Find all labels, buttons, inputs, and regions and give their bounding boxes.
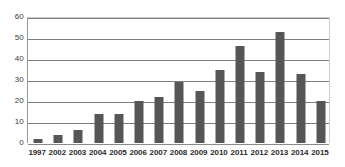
bar-2005[interactable]	[114, 114, 123, 143]
bar-2011[interactable]	[236, 46, 245, 143]
bar-2010[interactable]	[215, 70, 224, 144]
bar-slot	[28, 18, 48, 143]
x-tick-label: 2003	[69, 148, 86, 158]
x-tick-label: 2013	[271, 148, 288, 158]
bar-2013[interactable]	[276, 32, 285, 143]
gridline-0	[28, 144, 329, 145]
bar-2009[interactable]	[195, 91, 204, 144]
bar-2004[interactable]	[94, 114, 103, 143]
y-tick-label: 30	[0, 76, 24, 84]
x-tick-label: 2011	[231, 148, 248, 158]
bar-slot	[129, 18, 149, 143]
bar-slot	[250, 18, 270, 143]
y-tick-label: 50	[0, 34, 24, 42]
bar-2015[interactable]	[316, 101, 325, 143]
bar-slot	[68, 18, 88, 143]
bar-slot	[270, 18, 290, 143]
bar-slot	[190, 18, 210, 143]
y-tick-label: 20	[0, 97, 24, 105]
bar-2003[interactable]	[74, 130, 83, 143]
x-tick-label: 2009	[190, 148, 207, 158]
bar-2002[interactable]	[54, 135, 63, 143]
bar-1997[interactable]	[34, 139, 43, 143]
x-axis: 1997200220032004200520062007200820092010…	[27, 148, 330, 162]
y-tick-label: 10	[0, 118, 24, 126]
bar-chart: 0102030405060 19972002200320042005200620…	[0, 0, 345, 167]
bar-slot	[169, 18, 189, 143]
y-tick-label: 60	[0, 13, 24, 21]
x-tick-label: 2006	[129, 148, 146, 158]
bar-2007[interactable]	[155, 97, 164, 143]
y-axis: 0102030405060	[0, 0, 24, 167]
x-tick-label: 2012	[251, 148, 268, 158]
x-tick-label: 2007	[150, 148, 167, 158]
bar-slot	[109, 18, 129, 143]
bar-2014[interactable]	[296, 74, 305, 143]
bar-slot	[149, 18, 169, 143]
bar-slot	[230, 18, 250, 143]
bar-2006[interactable]	[135, 101, 144, 143]
bar-slot	[89, 18, 109, 143]
bar-slot	[210, 18, 230, 143]
y-tick-label: 0	[0, 139, 24, 147]
x-tick-label: 2010	[210, 148, 227, 158]
x-tick-label: 2002	[49, 148, 66, 158]
x-tick-label: 1997	[28, 148, 45, 158]
bar-slot	[291, 18, 311, 143]
bar-slot	[48, 18, 68, 143]
x-tick-label: 2008	[170, 148, 187, 158]
x-tick-label: 2015	[311, 148, 328, 158]
bar-slot	[311, 18, 331, 143]
bars-layer	[28, 18, 329, 143]
x-tick-label: 2014	[291, 148, 308, 158]
plot-area	[27, 17, 330, 143]
x-tick-label: 2005	[109, 148, 126, 158]
y-tick-label: 40	[0, 55, 24, 63]
x-tick-label: 2004	[89, 148, 106, 158]
bar-2012[interactable]	[256, 72, 265, 143]
bar-2008[interactable]	[175, 82, 184, 143]
